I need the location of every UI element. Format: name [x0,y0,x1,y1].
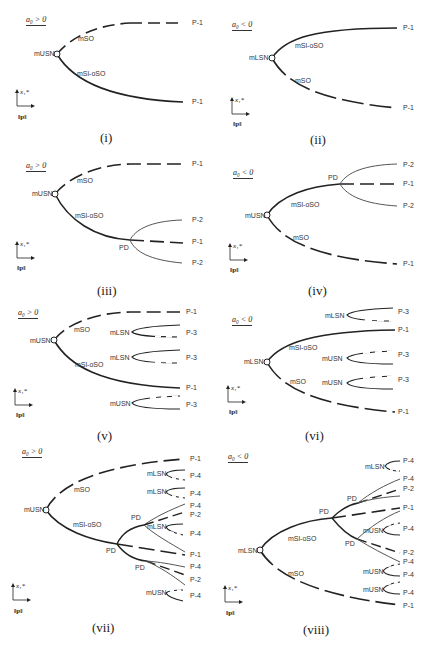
axis-y-label: x₁* [231,384,240,392]
end-label: P-2 [190,576,201,584]
end-label: P-1 [186,308,197,316]
axis-x-label: ‖p‖ [233,120,241,128]
branch-label: mSl-oSO [75,361,103,369]
branch-label: mSO [74,326,90,334]
pd-label: PD [347,495,357,503]
branch-label: mSO [288,570,304,578]
isola-label: mUSN [363,586,384,594]
pd-label: PD [135,564,145,572]
axis-x-label: ‖p‖ [229,408,237,416]
end-label: P-1 [398,326,409,334]
condition-label: a₀ < 0 [233,168,253,179]
node-label: mUSN [245,212,266,220]
end-label: P-4 [403,589,414,597]
end-label: P-1 [190,551,201,559]
end-label: P-1 [192,160,203,168]
condition-label: a₀ < 0 [232,315,252,326]
panel-caption: (vi) [305,428,324,444]
end-label: P-4 [403,558,414,566]
branch-label: mSl-oSO [75,212,103,220]
end-label: P-3 [398,308,409,316]
axis-y-label: x₁* [20,88,29,96]
end-label: P-2 [403,485,414,493]
isola-label: mUSN [363,527,384,535]
branch-label: mSO [290,378,306,386]
axis-y-label: x₁* [228,584,237,592]
pd-label: PD [345,540,355,548]
panel-caption: (v) [97,428,112,444]
panel-caption: (ii) [310,132,326,148]
axis-x-label: ‖p‖ [18,113,26,121]
end-label: P-4 [190,563,201,571]
end-label: P-3 [186,329,197,337]
end-label: P-4 [403,571,414,579]
end-label: P-4 [403,525,414,533]
condition-label: a₀ > 0 [22,447,42,458]
end-label: P-4 [190,490,201,498]
end-label: P-4 [190,592,201,600]
isola-label: mUSN [110,400,131,408]
isola-label: mLSN [147,523,166,531]
end-label: P-1 [192,98,203,106]
branch-label: mSl-oSO [73,521,101,529]
branch-label: mSl-oSO [77,70,105,78]
end-label: P-1 [403,24,414,32]
isola-label: mLSN [325,312,344,320]
axis-x-label: ‖p‖ [17,264,25,272]
pd-label: PD [328,174,338,182]
end-label: P-4 [190,530,201,538]
isola-label: mLSN [147,470,166,478]
condition-label: a₀ > 0 [26,161,46,172]
end-label: P-1 [186,384,197,392]
panel-iii: a₀ > 0 mUSN mSO mSl-oSO PD P-1 P-2 P-1 P… [0,150,215,305]
node-label: mUSN [30,337,51,345]
isola-label: mLSN [110,329,129,337]
end-label: P-1 [403,104,414,112]
panel-vi: a₀ < 0 mLSN mSl-oSO mSO mLSN mUSN mUSN P… [215,305,429,455]
branch-label: mSl-oSO [288,535,316,543]
condition-label: a₀ < 0 [228,452,248,463]
isola-label: mUSN [146,589,167,597]
axis-x-label: ‖p‖ [226,609,234,617]
condition-label: a₀ < 0 [232,20,252,31]
pd-label: PD [119,244,129,252]
bifurcation-diagram-iii [0,150,215,305]
panel-caption: (iii) [97,283,117,299]
branch-label: mSl-oSO [289,344,317,352]
end-label: P-4 [403,457,414,465]
panel-i: a₀ > 0 mUSN mSO mSl-oSO P-1 P-1 x₁* ‖p‖ … [0,0,215,150]
axis-y-label: x₁* [18,387,27,395]
condition-label: a₀ > 0 [18,308,38,319]
branch-label: mSO [293,234,309,242]
axis-y-label: x₁* [235,96,244,104]
panel-v: a₀ > 0 mUSN mSO mSl-oSO mLSN mLSN mUSN P… [0,305,215,455]
isola-label: mUSN [322,355,343,363]
panel-caption: (vii) [92,620,114,636]
end-label: P-2 [403,202,414,210]
axis-x-label: ‖p‖ [230,266,238,274]
isola-label: mLSN [365,463,384,471]
node-label: mLSN [244,358,263,366]
panel-caption: (viii) [303,622,329,638]
panel-viii: a₀ < 0 mLSN mSl-oSO mSO PD PD PD mLSN mU… [215,455,429,645]
end-label: P-2 [403,161,414,169]
node-label: mUSN [32,190,53,198]
pd-label: PD [131,514,141,522]
isola-label: mLSN [147,488,166,496]
end-label: P-4 [190,472,201,480]
panel-caption: (i) [100,130,112,146]
branch-label: mSO [295,77,311,85]
end-label: P-1 [190,455,201,463]
axis-x-label: ‖p‖ [14,607,22,615]
end-label: P-1 [192,19,203,27]
end-label: P-2 [190,511,201,519]
end-label: P-1 [403,180,414,188]
branch-label: mSO [78,35,94,43]
node-label: mUSN [24,506,45,514]
end-label: P-2 [192,216,203,224]
axis-y-label: x₁* [20,240,29,248]
end-label: P-3 [186,354,197,362]
end-label: P-2 [403,549,414,557]
end-label: P-1 [403,260,414,268]
node-label: mUSN [34,50,55,58]
